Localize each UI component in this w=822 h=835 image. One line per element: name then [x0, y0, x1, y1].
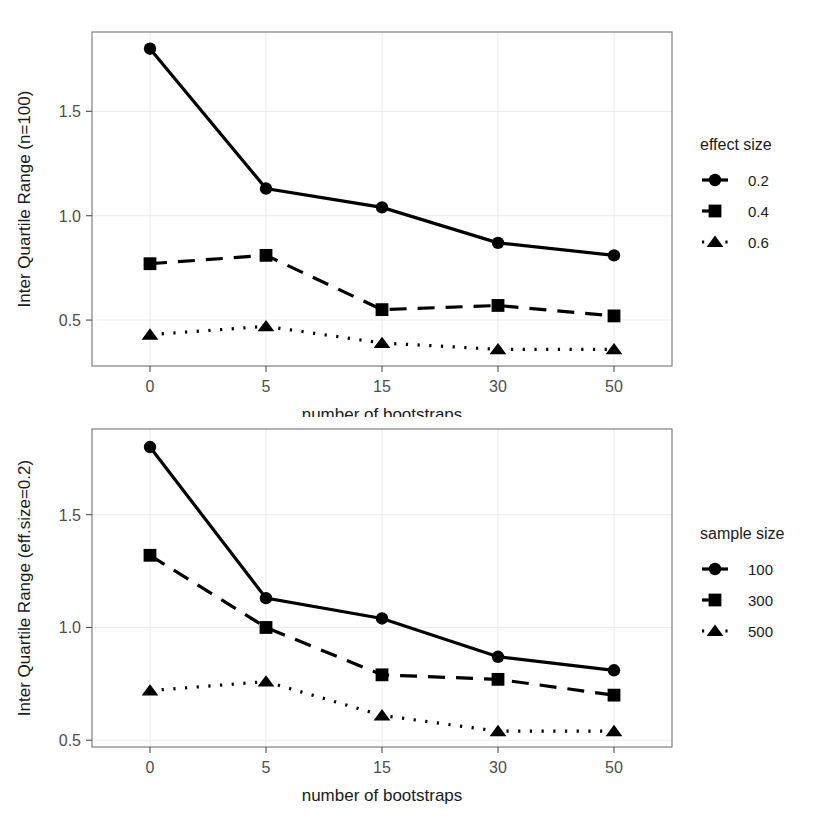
data-point-100-30 — [492, 651, 504, 663]
y-tick-label-1.0: 1.0 — [59, 208, 81, 225]
legend: effect size0.20.40.6 — [700, 136, 772, 251]
legend-item-0.6[interactable]: 0.6 — [702, 234, 769, 251]
y-tick-label-1.0: 1.0 — [59, 619, 81, 636]
data-point-300-30 — [492, 673, 505, 686]
data-point-100-15 — [376, 612, 388, 624]
x-tick-label-30: 30 — [489, 759, 507, 776]
legend-item-0.2[interactable]: 0.2 — [702, 172, 769, 189]
x-tick-label-15: 15 — [373, 759, 391, 776]
legend-title: sample size — [700, 525, 785, 542]
legend-key-marker-0.2 — [709, 174, 721, 186]
y-tick-label-1.5: 1.5 — [59, 103, 81, 120]
x-tick-label-30: 30 — [489, 378, 507, 395]
y-tick-label-0.5: 0.5 — [59, 312, 81, 329]
data-point-300-50 — [608, 689, 621, 702]
data-point-300-0 — [144, 549, 157, 562]
legend-label-500: 500 — [748, 623, 773, 640]
data-point-0.2-50 — [608, 249, 620, 261]
legend-item-500[interactable]: 500 — [702, 623, 773, 640]
data-point-100-0 — [144, 441, 156, 453]
data-point-0.4-15 — [376, 303, 389, 316]
y-axis-title: Inter Quartile Range (n=100) — [15, 91, 34, 308]
legend-item-0.4[interactable]: 0.4 — [702, 203, 769, 220]
legend-title: effect size — [700, 136, 772, 153]
legend-key-marker-300 — [709, 594, 722, 607]
legend-item-300[interactable]: 300 — [702, 592, 773, 609]
data-point-100-5 — [260, 592, 272, 604]
legend-label-0.2: 0.2 — [748, 172, 769, 189]
data-point-0.2-0 — [144, 43, 156, 55]
x-tick-label-50: 50 — [605, 759, 623, 776]
legend-label-300: 300 — [748, 592, 773, 609]
data-point-300-5 — [260, 621, 273, 634]
legend-key-marker-0.6 — [707, 236, 724, 247]
legend-label-0.6: 0.6 — [748, 234, 769, 251]
legend-item-100[interactable]: 100 — [702, 561, 773, 578]
data-point-0.4-50 — [608, 310, 621, 323]
legend: sample size100300500 — [700, 525, 785, 640]
data-point-0.2-5 — [260, 182, 272, 194]
data-point-0.4-5 — [260, 249, 273, 262]
data-point-0.2-30 — [492, 237, 504, 249]
x-tick-label-50: 50 — [605, 378, 623, 395]
chart-svg-bottom: 0.51.01.505153050number of bootstrapsInt… — [0, 417, 822, 835]
data-point-100-50 — [608, 664, 620, 676]
y-tick-label-1.5: 1.5 — [59, 507, 81, 524]
legend-key-marker-0.4 — [709, 205, 722, 218]
x-axis-title: number of bootstraps — [302, 405, 463, 417]
x-tick-label-5: 5 — [262, 378, 271, 395]
legend-label-0.4: 0.4 — [748, 203, 769, 220]
data-point-300-15 — [376, 668, 389, 681]
x-tick-label-0: 0 — [146, 378, 155, 395]
legend-label-100: 100 — [748, 561, 773, 578]
chart-panel-top: 0.51.01.505153050number of bootstrapsInt… — [0, 0, 822, 417]
figure-root: 0.51.01.505153050number of bootstrapsInt… — [0, 0, 822, 835]
y-axis-title: Inter Quartile Range (eff.size=0.2) — [15, 460, 34, 716]
data-point-0.4-0 — [144, 257, 157, 270]
chart-svg-top: 0.51.01.505153050number of bootstrapsInt… — [0, 0, 822, 417]
data-point-0.2-15 — [376, 201, 388, 213]
x-tick-label-15: 15 — [373, 378, 391, 395]
x-axis-title: number of bootstraps — [302, 786, 463, 805]
legend-key-marker-500 — [707, 625, 724, 636]
legend-key-marker-100 — [709, 563, 721, 575]
y-tick-label-0.5: 0.5 — [59, 732, 81, 749]
x-tick-label-0: 0 — [146, 759, 155, 776]
x-tick-label-5: 5 — [262, 759, 271, 776]
data-point-0.4-30 — [492, 299, 505, 312]
chart-panel-bottom: 0.51.01.505153050number of bootstrapsInt… — [0, 417, 822, 834]
